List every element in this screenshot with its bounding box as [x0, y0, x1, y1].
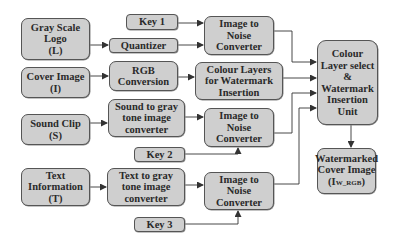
edge-inc1-unit	[274, 31, 316, 62]
node-label: Image to Noise Converter	[216, 18, 262, 53]
node-label-end: )	[361, 176, 365, 187]
node-rgb-conversion: RGB Conversion	[109, 61, 178, 91]
node-watermark-insertion-unit: Colour Layer select & Watermark Insertio…	[317, 40, 378, 125]
node-label: Cover Image (I)	[27, 71, 85, 94]
node-cover-image: Cover Image (I)	[21, 67, 90, 98]
node-label: RGB Conversion	[118, 65, 169, 88]
node-label: Key 1	[139, 16, 165, 28]
node-label: Key 2	[147, 149, 173, 161]
edge-key2-inc2	[185, 148, 238, 154]
node-label: Colour Layer select & Watermark Insertio…	[321, 48, 375, 117]
node-label: Sound Clip (S)	[30, 118, 81, 141]
edge-inc2-unit	[274, 93, 316, 133]
edge-key3-inc3	[185, 211, 238, 224]
node-image-to-noise-2: Image to Noise Converter	[204, 108, 274, 147]
node-label: Gray Scale Logo (L)	[31, 22, 80, 57]
node-colour-layers: Colour Layers for Watermark Insertion	[195, 62, 283, 100]
node-sound-clip: Sound Clip (S)	[21, 114, 90, 145]
node-label: Colour Layers for Watermark Insertion	[205, 64, 273, 99]
node-label: Watermarked Cover Image (IW_RGB)	[315, 153, 378, 190]
node-watermarked-cover-image: Watermarked Cover Image (IW_RGB)	[317, 148, 376, 194]
node-label: Text Information (T)	[28, 170, 83, 205]
block-diagram: Gray Scale Logo (L) Key 1 Quantizer Imag…	[0, 0, 406, 244]
node-label: Sound to gray tone image converter	[115, 101, 178, 136]
node-image-to-noise-1: Image to Noise Converter	[204, 16, 274, 55]
edge-inc3-unit	[274, 108, 316, 184]
node-text-to-gray: Text to gray tone image converter	[107, 168, 185, 206]
node-sound-to-gray: Sound to gray tone image converter	[108, 99, 185, 137]
node-key-3: Key 3	[134, 217, 185, 232]
node-text-information: Text Information (T)	[21, 168, 90, 206]
node-label: Quantizer	[121, 40, 167, 52]
node-grayscale-logo: Gray Scale Logo (L)	[21, 18, 90, 60]
node-image-to-noise-3: Image to Noise Converter	[204, 172, 274, 210]
node-label: Text to gray tone image converter	[119, 170, 173, 205]
node-key-2: Key 2	[134, 147, 185, 162]
node-quantizer: Quantizer	[109, 38, 178, 53]
node-label-subscript: W_RGB	[336, 179, 362, 187]
node-label: Key 3	[147, 219, 173, 231]
node-label: Image to Noise Converter	[216, 110, 262, 145]
node-label: Image to Noise Converter	[216, 174, 262, 209]
node-key-1: Key 1	[126, 14, 178, 30]
